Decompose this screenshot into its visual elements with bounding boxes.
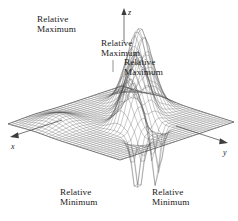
- x-axis-arrowhead: [10, 132, 19, 138]
- label-line-1: Relative: [60, 187, 91, 197]
- label-relative-minimum-1: Relative Minimum: [60, 187, 97, 208]
- label-line-1: Relative: [152, 187, 183, 197]
- label-relative-maximum-1: Relative Maximum: [37, 14, 76, 35]
- x-axis-label: x: [11, 142, 15, 151]
- label-line-1: Relative: [37, 14, 68, 24]
- label-relative-maximum-3: Relative Maximum: [124, 57, 163, 78]
- label-relative-minimum-2: Relative Minimum: [152, 187, 189, 208]
- surface-wireframe: [0, 0, 238, 221]
- y-axis-label: y: [223, 148, 227, 157]
- z-axis-label: z: [128, 8, 131, 17]
- label-relative-maximum-2: Relative Maximum: [101, 38, 140, 59]
- label-line-2: Minimum: [60, 197, 97, 207]
- label-line-2: Minimum: [152, 197, 189, 207]
- label-line-1: Relative: [101, 38, 132, 48]
- y-axis-arrowhead: [219, 138, 228, 144]
- label-line-1: Relative: [124, 57, 155, 67]
- label-line-2: Maximum: [124, 67, 163, 77]
- z-axis-arrowhead: [121, 8, 126, 15]
- surface-plot-figure: Relative Maximum Relative Maximum Relati…: [0, 0, 238, 221]
- label-line-2: Maximum: [37, 24, 76, 34]
